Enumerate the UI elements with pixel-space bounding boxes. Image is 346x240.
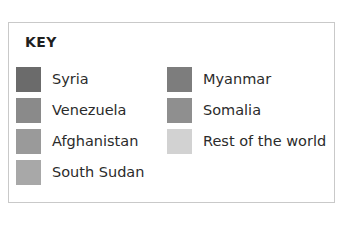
legend-label-afghanistan: Afghanistan xyxy=(52,134,138,149)
legend-item-somalia: Somalia xyxy=(167,95,332,126)
legend-column-left: Syria Venezuela Afghanistan South Sudan xyxy=(16,64,166,188)
legend-box: KEY Syria Venezuela Afghanistan South Su… xyxy=(8,22,335,203)
legend-label-venezuela: Venezuela xyxy=(52,103,126,118)
legend-swatch-myanmar xyxy=(167,67,192,92)
legend-column-right: Myanmar Somalia Rest of the world xyxy=(167,64,332,157)
legend-label-somalia: Somalia xyxy=(203,103,261,118)
legend-item-rest-of-the-world: Rest of the world xyxy=(167,126,332,157)
legend-item-venezuela: Venezuela xyxy=(16,95,166,126)
legend-item-afghanistan: Afghanistan xyxy=(16,126,166,157)
legend-label-syria: Syria xyxy=(52,72,89,87)
legend-swatch-south-sudan xyxy=(16,160,41,185)
legend-item-south-sudan: South Sudan xyxy=(16,157,166,188)
legend-swatch-rest-of-the-world xyxy=(167,129,192,154)
legend-label-rest-of-the-world: Rest of the world xyxy=(203,134,326,149)
legend-swatch-syria xyxy=(16,67,41,92)
legend-label-south-sudan: South Sudan xyxy=(52,165,144,180)
legend-item-syria: Syria xyxy=(16,64,166,95)
legend-label-myanmar: Myanmar xyxy=(203,72,271,87)
legend-item-myanmar: Myanmar xyxy=(167,64,332,95)
legend-swatch-afghanistan xyxy=(16,129,41,154)
legend-title: KEY xyxy=(25,35,57,49)
legend-swatch-venezuela xyxy=(16,98,41,123)
legend-swatch-somalia xyxy=(167,98,192,123)
